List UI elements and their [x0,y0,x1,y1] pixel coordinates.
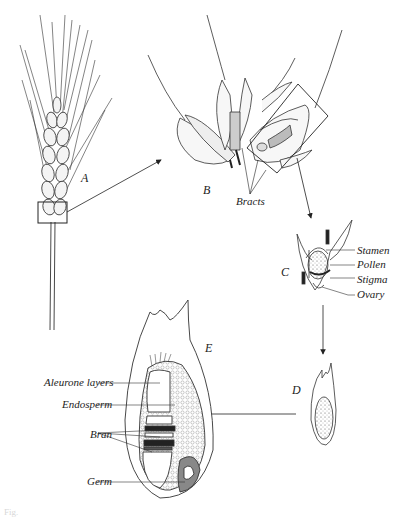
panel-d-grain [200,363,336,445]
label-endosperm: Endosperm [62,399,112,410]
label-ovary: Ovary [357,289,385,300]
label-bran: Bran [90,429,112,440]
label-stamen: Stamen [357,245,389,256]
panel-label-c: C [281,266,289,278]
label-pollen: Pollen [357,259,386,270]
panel-label-e: E [205,342,212,354]
panel-b-spikelet [148,15,342,218]
diagram-canvas [0,0,405,520]
panel-label-b: B [203,184,210,196]
label-stigma: Stigma [357,274,388,285]
wheat-grain-diagram: A B Bracts C Stamen Pollen Stigma Ovary … [0,0,405,520]
panel-label-a: A [81,172,88,184]
panel-c-floret [297,220,355,354]
panel-a-wheat-ear [20,15,161,330]
label-aleurone-layers: Aleurone layers [44,377,114,388]
panel-label-d: D [292,384,301,396]
label-bracts: Bracts [236,196,265,207]
label-germ: Germ [87,476,112,487]
panel-e-grain-section [96,300,213,498]
figure-caption-fragment: Fig. [4,508,18,517]
